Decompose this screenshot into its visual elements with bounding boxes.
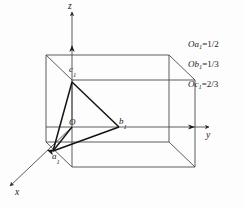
triangle-edge-c1-b1 — [72, 82, 119, 127]
annotation-oa1-segment: Oa — [188, 39, 199, 49]
point-label-origin: O — [69, 118, 76, 127]
cube-diagram-svg — [0, 0, 244, 208]
annotation-oa1-subscript: 1 — [199, 43, 202, 50]
annotation-ob1: Ob1=1/3 — [188, 60, 219, 69]
cube-edge-bottom-right-diag — [169, 142, 195, 167]
annotation-oc1-subscript: 1 — [199, 83, 202, 90]
point-label-a1-text: a — [52, 151, 57, 161]
x-axis-label: x — [15, 188, 19, 198]
point-label-c1-subscript: 1 — [73, 71, 76, 78]
intercept-triangle — [53, 82, 119, 151]
annotation-oc1-segment: Oc — [188, 79, 199, 89]
point-label-a1-subscript: 1 — [57, 158, 60, 165]
point-label-b1: b1 — [119, 117, 127, 128]
point-label-a1: a1 — [52, 152, 60, 163]
annotation-oa1-value: =1/2 — [202, 39, 219, 49]
geometry-figure: z y x O a1 b1 c1 Oa1=1/2 Ob1=1/3 Oc1=2/3 — [0, 0, 244, 208]
annotation-oc1-value: =2/3 — [202, 79, 219, 89]
annotation-ob1-value: =1/3 — [202, 59, 219, 69]
annotation-oa1: Oa1=1/2 — [188, 40, 219, 49]
y-axis-label: y — [206, 131, 210, 141]
point-label-c1: c1 — [69, 65, 76, 76]
annotation-ob1-subscript: 1 — [199, 63, 202, 70]
x-axis-line — [10, 127, 72, 186]
axes-group — [10, 12, 209, 186]
annotation-oc1: Oc1=2/3 — [188, 80, 218, 89]
point-label-b1-text: b — [119, 116, 124, 126]
point-label-b1-subscript: 1 — [124, 123, 127, 130]
annotation-ob1-segment: Ob — [188, 59, 199, 69]
z-axis-label: z — [68, 2, 72, 12]
